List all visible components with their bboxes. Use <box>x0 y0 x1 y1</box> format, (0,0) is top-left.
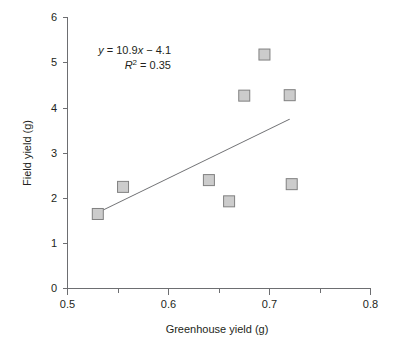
y-axis-ticks <box>63 18 68 289</box>
equation-line: y = 10.9x − 4.1 <box>97 44 171 56</box>
data-point-markers <box>92 49 297 219</box>
y-tick-label-2: 2 <box>51 192 57 204</box>
regression-trend-line <box>98 119 290 212</box>
x-axis-title: Greenhouse yield (g) <box>166 323 269 335</box>
data-point-marker-6 <box>284 90 295 101</box>
scatter-plot-figure: 0 1 2 3 4 5 6 0.5 0.6 0.7 0.8 Greenhouse… <box>0 0 394 348</box>
r-squared-line: R2 = 0.35 <box>125 58 171 71</box>
x-axis-tick-labels: 0.5 0.6 0.7 0.8 <box>60 298 378 310</box>
data-point-marker-5 <box>259 49 270 60</box>
y-tick-label-5: 5 <box>51 56 57 68</box>
regression-annotation: y = 10.9x − 4.1 R2 = 0.35 <box>97 44 171 71</box>
r-squared-symbol: R <box>125 59 133 71</box>
y-tick-label-1: 1 <box>51 237 57 249</box>
data-point-marker-7 <box>286 179 297 190</box>
r-squared-value: = 0.35 <box>137 59 171 71</box>
y-tick-label-3: 3 <box>51 147 57 159</box>
equation-body: = 10.9 <box>104 44 138 56</box>
x-axis-ticks <box>68 289 371 295</box>
equation-tail: − 4.1 <box>143 44 171 56</box>
y-tick-label-4: 4 <box>51 102 57 114</box>
y-axis-title: Field yield (g) <box>21 120 33 186</box>
y-tick-label-6: 6 <box>51 11 57 23</box>
x-tick-label-3: 0.8 <box>363 298 378 310</box>
y-axis-tick-labels: 0 1 2 3 4 5 6 <box>51 11 57 294</box>
x-tick-label-1: 0.6 <box>161 298 176 310</box>
chart-canvas: 0 1 2 3 4 5 6 0.5 0.6 0.7 0.8 Greenhouse… <box>0 0 394 348</box>
data-point-marker-4 <box>239 90 250 101</box>
x-tick-label-2: 0.7 <box>262 298 277 310</box>
data-point-marker-2 <box>203 175 214 186</box>
y-tick-label-0: 0 <box>51 282 57 294</box>
data-point-marker-3 <box>224 196 235 207</box>
data-point-marker-0 <box>92 208 103 219</box>
x-tick-label-0: 0.5 <box>60 298 75 310</box>
data-point-marker-1 <box>118 181 129 192</box>
